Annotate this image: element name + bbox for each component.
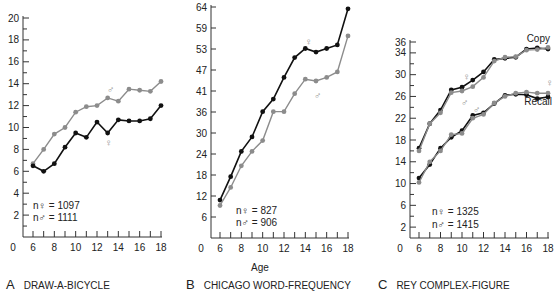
svg-text:24: 24 [196,149,208,160]
data-point [105,96,110,101]
data-point [63,145,68,150]
female-symbol: ♀ [105,137,113,148]
svg-text:10: 10 [70,242,82,253]
data-point [524,90,529,95]
female-symbol-recall: ♀ [546,77,554,88]
svg-text:14: 14 [8,78,20,89]
svg-text:2: 2 [13,210,19,221]
svg-text:12: 12 [91,242,103,253]
data-point [449,90,454,95]
data-point [535,91,540,96]
svg-text:14: 14 [113,242,125,253]
svg-text:14: 14 [300,243,312,254]
shared-x-axis-label: Age [251,262,269,273]
data-point [260,138,265,143]
data-point [427,159,432,164]
svg-text:8: 8 [13,144,19,155]
data-point [127,87,132,92]
svg-text:8: 8 [438,243,444,254]
data-point [470,78,475,83]
data-point [271,97,276,102]
svg-text:8: 8 [239,243,245,254]
data-point [127,119,132,124]
data-point [524,48,529,53]
svg-text:59: 59 [196,23,208,34]
n-male-label: n♂ = 1415 [432,219,479,230]
data-point [460,89,465,94]
series-line [220,36,348,206]
data-point [116,117,121,122]
panel-a-title: DRAW-A-BICYCLE [24,280,110,291]
data-point [84,104,89,109]
svg-text:10: 10 [395,178,407,189]
data-point [470,116,475,121]
female-symbol: ♀ [305,36,313,47]
svg-text:4: 4 [13,188,19,199]
data-point [346,33,351,38]
data-point [250,135,255,140]
svg-text:6: 6 [201,212,207,223]
svg-text:12: 12 [478,243,490,254]
panel-b-caption: BCHICAGO WORD-FREQUENCY [186,277,351,292]
data-point [481,112,486,117]
svg-text:12: 12 [196,191,208,202]
data-point [503,55,508,60]
data-point [438,110,443,115]
n-male-label: n♂ = 1111 [33,212,78,223]
data-point [513,54,518,59]
data-point [84,135,89,140]
data-point [228,185,233,190]
data-point [346,6,351,11]
svg-text:18: 18 [542,243,554,254]
svg-text:20: 20 [8,13,20,24]
recall-label: Recall [524,96,552,107]
svg-text:18: 18 [342,243,354,254]
svg-text:0: 0 [198,243,204,254]
svg-text:18: 18 [395,135,407,146]
data-point [250,149,255,154]
male-symbol: ♂ [107,84,115,95]
svg-text:6: 6 [13,166,19,177]
data-point [95,103,100,108]
svg-text:10: 10 [456,243,468,254]
data-point [427,121,432,126]
data-point [460,131,465,136]
svg-text:0: 0 [10,242,16,253]
panel-a-letter: A [6,277,15,292]
data-point [52,132,57,137]
svg-text:2: 2 [400,222,406,233]
svg-text:6: 6 [30,242,36,253]
panel-c-caption: CREY COMPLEX-FIGURE [378,277,510,292]
svg-text:36: 36 [395,37,407,48]
series-line [33,106,161,172]
data-point [116,99,121,104]
svg-text:36: 36 [196,107,208,118]
data-point [148,89,153,94]
svg-text:16: 16 [321,243,333,254]
data-point [335,42,340,47]
svg-text:41: 41 [196,86,208,97]
data-point [417,180,422,185]
svg-text:8: 8 [52,242,58,253]
data-point [438,148,443,153]
data-point [63,125,68,130]
panel-a-caption: ADRAW-A-BICYCLE [6,277,110,292]
n-female-label: n♀ = 827 [236,205,278,216]
data-point [137,88,142,93]
data-point [95,120,100,125]
panel-c-title: REY COMPLEX-FIGURE [396,280,509,291]
data-point [513,91,518,96]
svg-text:30: 30 [395,69,407,80]
svg-text:10: 10 [257,243,269,254]
svg-text:26: 26 [395,91,407,102]
svg-text:47: 47 [196,65,208,76]
data-point [52,161,57,166]
data-point [148,116,153,121]
data-point [239,149,244,154]
data-point [314,50,319,55]
data-point [314,79,319,84]
male-symbol-recall: ♂ [473,104,481,115]
data-point [470,84,475,89]
svg-text:14: 14 [395,156,407,167]
data-point [546,91,551,96]
